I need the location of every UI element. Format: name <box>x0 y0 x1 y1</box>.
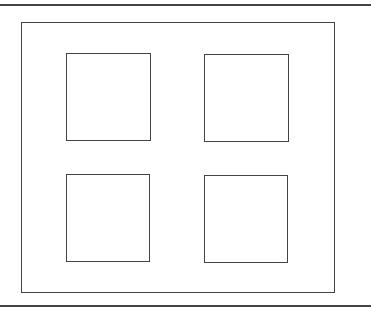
bottom-rule-line <box>0 305 371 307</box>
pane-top-right <box>204 54 289 142</box>
top-rule-line <box>0 4 371 6</box>
pane-bottom-left <box>66 174 150 262</box>
pane-bottom-right <box>204 175 288 263</box>
pane-top-left <box>66 53 151 141</box>
